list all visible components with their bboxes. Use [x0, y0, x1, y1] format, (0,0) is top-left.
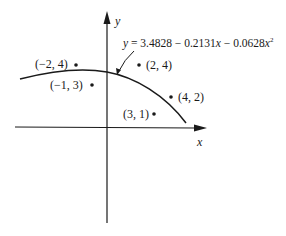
- data-point: [152, 112, 156, 116]
- point-label-neg1-3: (−1, 3): [50, 79, 83, 91]
- fit-curve: [20, 70, 186, 123]
- x-axis-label: x: [197, 136, 202, 148]
- data-point: [74, 63, 78, 67]
- point-label-3-1: (3, 1): [123, 108, 149, 120]
- equation-rhs-2: − 0.0628: [221, 37, 265, 49]
- y-axis-arrow-icon: [104, 11, 111, 24]
- point-label-4-2: (4, 2): [178, 91, 204, 103]
- fit-equation: y = 3.4828 − 0.2131x − 0.0628x2: [123, 37, 273, 49]
- equation-exponent: 2: [270, 36, 274, 44]
- data-point: [169, 95, 173, 99]
- x-axis: [15, 127, 195, 128]
- equation-pointer: [119, 51, 134, 71]
- point-label-neg2-4: (−2, 4): [35, 58, 68, 70]
- data-point: [90, 83, 94, 87]
- equation-rhs-1: = 3.4828 − 0.2131: [128, 37, 216, 49]
- x-axis-arrow-icon: [194, 125, 207, 132]
- data-point: [137, 63, 141, 67]
- point-label-2-4: (2, 4): [146, 59, 172, 71]
- y-axis-label: y: [115, 15, 120, 27]
